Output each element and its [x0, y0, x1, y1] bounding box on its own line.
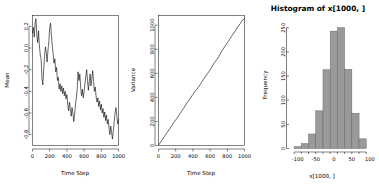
svg-text:-0.8: -0.8 — [23, 130, 29, 140]
variance-y-axis-label: Variance — [130, 67, 136, 92]
svg-text:600: 600 — [149, 68, 155, 78]
svg-text:400: 400 — [149, 92, 155, 102]
mean-series-line — [33, 19, 119, 139]
svg-text:50: 50 — [280, 121, 286, 128]
mean-plot-box — [33, 16, 119, 146]
histogram-x-axis: -100-50050100 — [292, 152, 375, 162]
svg-text:200: 200 — [45, 153, 55, 159]
mean-y-axis: 0.20.0-0.2-0.4-0.6-0.8 — [23, 22, 31, 140]
svg-text:0: 0 — [31, 153, 34, 159]
panel-histogram: Histogram of x[1000, ] -100-50050100 050… — [252, 0, 378, 188]
svg-text:0.2: 0.2 — [23, 22, 29, 30]
variance-x-axis: 02004006008001000 — [157, 149, 251, 159]
svg-text:100: 100 — [280, 95, 286, 105]
variance-plot-svg: 02004006008001000 02004006008001000 Time… — [126, 0, 252, 188]
svg-text:800: 800 — [222, 153, 232, 159]
svg-text:200: 200 — [171, 153, 181, 159]
histogram-svg: Histogram of x[1000, ] -100-50050100 050… — [252, 0, 379, 188]
panel-variance-timeseries: 02004006008001000 02004006008001000 Time… — [126, 0, 252, 188]
svg-text:-0.6: -0.6 — [23, 108, 29, 118]
svg-text:600: 600 — [79, 153, 89, 159]
histogram-y-axis-label: Frequency — [262, 70, 269, 100]
histogram-title: Histogram of x[1000, ] — [271, 4, 365, 13]
mean-x-axis-label: Time Step — [60, 170, 90, 177]
svg-text:600: 600 — [205, 153, 215, 159]
svg-text:1000: 1000 — [149, 19, 155, 32]
svg-text:800: 800 — [149, 44, 155, 54]
svg-text:0: 0 — [149, 144, 155, 147]
variance-series-line — [159, 19, 245, 145]
panel-mean-timeseries: 02004006008001000 0.20.0-0.2-0.4-0.6-0.8… — [0, 0, 126, 188]
variance-y-axis: 02004006008001000 — [149, 19, 157, 148]
variance-x-axis-label: Time Step — [186, 170, 216, 177]
svg-text:50: 50 — [349, 156, 356, 162]
svg-text:800: 800 — [96, 153, 106, 159]
histogram-x-axis-label: x[1000, ] — [309, 173, 334, 179]
histogram-bars — [294, 28, 366, 149]
svg-text:0.0: 0.0 — [23, 44, 29, 52]
histogram-y-axis: 050100150200250 — [280, 23, 289, 150]
mean-x-axis: 02004006008001000 — [31, 149, 125, 159]
svg-text:1000: 1000 — [238, 153, 251, 159]
svg-text:150: 150 — [280, 71, 286, 81]
svg-text:200: 200 — [149, 116, 155, 126]
svg-text:-50: -50 — [312, 156, 320, 162]
svg-text:250: 250 — [280, 23, 286, 33]
svg-text:0: 0 — [280, 147, 286, 150]
svg-text:0: 0 — [332, 156, 335, 162]
svg-text:-0.4: -0.4 — [23, 86, 29, 97]
svg-text:0: 0 — [157, 153, 160, 159]
svg-text:-0.2: -0.2 — [23, 65, 29, 75]
svg-text:1000: 1000 — [112, 153, 125, 159]
r-multi-panel-figure: 02004006008001000 0.20.0-0.2-0.4-0.6-0.8… — [0, 0, 379, 188]
mean-y-axis-label: Mean — [4, 72, 10, 88]
svg-text:200: 200 — [280, 47, 286, 57]
svg-text:100: 100 — [365, 156, 375, 162]
mean-plot-svg: 02004006008001000 0.20.0-0.2-0.4-0.6-0.8… — [0, 0, 126, 188]
svg-text:400: 400 — [188, 153, 198, 159]
svg-text:400: 400 — [62, 153, 72, 159]
svg-text:-100: -100 — [292, 156, 304, 162]
